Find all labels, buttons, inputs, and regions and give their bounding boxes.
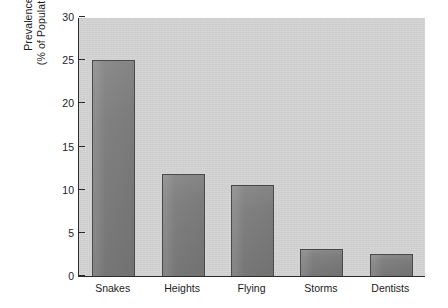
bar-snakes bbox=[92, 60, 135, 276]
bar-shading bbox=[163, 175, 204, 276]
y-tick-25: 25 bbox=[79, 59, 85, 60]
bar-flying bbox=[231, 185, 274, 277]
y-axis-title-line-1: Prevalence bbox=[22, 0, 35, 51]
y-tick-5: 5 bbox=[79, 232, 85, 233]
plot-area: 051015202530 bbox=[78, 18, 425, 277]
bar-storms bbox=[300, 249, 343, 276]
y-tick-30: 30 bbox=[79, 16, 85, 17]
bar-chart-figure: Prevalence (% of Population) 05101520253… bbox=[0, 0, 448, 308]
y-tick-label-10: 10 bbox=[62, 184, 74, 196]
y-axis-title-line-2: (% of Population) bbox=[35, 0, 48, 65]
y-axis-title: Prevalence (% of Population) bbox=[18, 0, 52, 104]
bar-shading bbox=[371, 255, 412, 276]
y-tick-label-0: 0 bbox=[68, 270, 74, 282]
x-tick-label-storms: Storms bbox=[304, 282, 337, 294]
bar-shading bbox=[232, 186, 273, 277]
bar-shading bbox=[93, 61, 134, 276]
y-tick-label-30: 30 bbox=[62, 11, 74, 23]
y-tick-10: 10 bbox=[79, 189, 85, 190]
y-tick-label-5: 5 bbox=[68, 227, 74, 239]
x-tick-label-heights: Heights bbox=[164, 282, 200, 294]
x-tick-label-flying: Flying bbox=[237, 282, 265, 294]
y-tick-0: 0 bbox=[79, 275, 85, 276]
y-tick-15: 15 bbox=[79, 146, 85, 147]
y-tick-label-20: 20 bbox=[62, 97, 74, 109]
y-tick-label-15: 15 bbox=[62, 141, 74, 153]
y-tick-label-25: 25 bbox=[62, 54, 74, 66]
x-tick-label-snakes: Snakes bbox=[95, 282, 130, 294]
bar-dentists bbox=[370, 254, 413, 276]
bar-heights bbox=[162, 174, 205, 276]
y-tick-20: 20 bbox=[79, 102, 85, 103]
x-tick-label-dentists: Dentists bbox=[371, 282, 409, 294]
bar-shading bbox=[301, 250, 342, 276]
